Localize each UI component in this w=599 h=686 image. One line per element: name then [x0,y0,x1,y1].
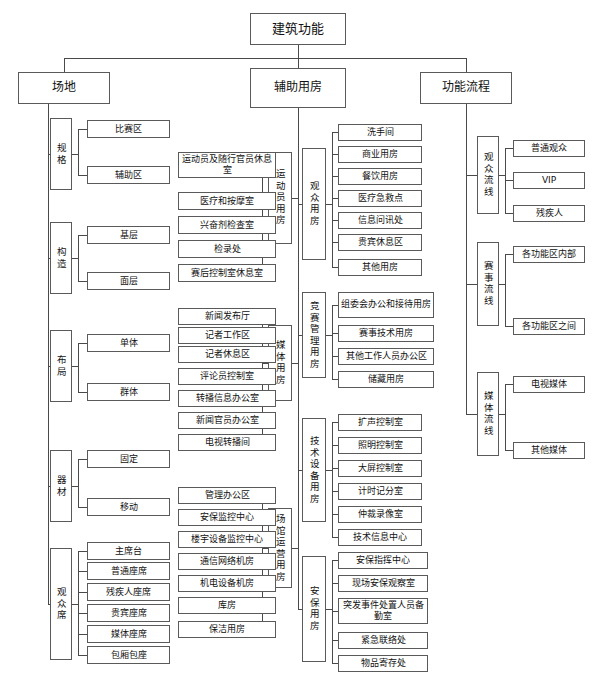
leaf-node-各功能区内部: 各功能区内部 [513,246,585,263]
leaf-node-VIP: VIP [513,172,585,189]
leaf-node-信息问讯处: 信息问讯处 [338,212,422,229]
leaf-node-运动员及随行官员休息室: 运动员及随行官员休息室 [178,152,276,178]
leaf-node-通信网络机房: 通信网络机房 [178,553,276,570]
leaf-node-库房: 库房 [178,597,276,614]
leaf-node-储藏用房: 储藏用房 [338,371,434,388]
leaf-node-组委会办公和接待用房: 组委会办公和接待用房 [338,292,434,318]
group-label-观众用房: 观众用房 [302,148,326,260]
group-label-观众席: 观众席 [50,548,72,660]
leaf-node-单体: 单体 [87,334,170,352]
group-label-媒体流线: 媒体流线 [477,372,499,456]
leaf-node-现场安保观察室: 现场安保观察室 [338,575,428,592]
group-label-技术设备用房: 技术设备用房 [302,418,326,522]
leaf-node-赛后控制室休息室: 赛后控制室休息室 [178,264,276,282]
leaf-node-洗手间: 洗手间 [338,124,422,141]
leaf-node-安保指挥中心: 安保指挥中心 [338,552,428,569]
leaf-node-包厢包座: 包厢包座 [87,646,170,664]
leaf-node-计时记分室: 计时记分室 [338,483,422,500]
leaf-node-比赛区: 比赛区 [87,120,170,138]
leaf-node-转播信息办公室: 转播信息办公室 [178,390,276,407]
branch-node-场地: 场地 [18,72,110,104]
leaf-node-大屏控制室: 大屏控制室 [338,460,422,477]
leaf-node-评论员控制室: 评论员控制室 [178,368,276,385]
leaf-node-贵宾休息区: 贵宾休息区 [338,234,422,251]
leaf-node-餐饮用房: 餐饮用房 [338,168,422,185]
leaf-node-赛事技术用房: 赛事技术用房 [338,325,434,342]
leaf-node-扩声控制室: 扩声控制室 [338,414,422,431]
leaf-node-电视媒体: 电视媒体 [513,376,585,393]
group-label-观众流线: 观众流线 [477,136,499,214]
leaf-node-媒体座席: 媒体座席 [87,625,170,643]
leaf-node-主席台: 主席台 [87,542,170,560]
leaf-node-普通座席: 普通座席 [87,562,170,580]
leaf-node-残疾人: 残疾人 [513,205,585,222]
leaf-node-医疗急救点: 医疗急救点 [338,190,422,207]
leaf-node-辅助区: 辅助区 [87,166,170,184]
leaf-node-固定: 固定 [87,450,170,468]
leaf-node-新闻发布厅: 新闻发布厅 [178,308,276,325]
leaf-node-管理办公区: 管理办公区 [178,487,276,504]
leaf-node-普通观众: 普通观众 [513,140,585,157]
group-label-安保用房: 安保用房 [302,556,326,662]
group-label-赛事流线: 赛事流线 [477,242,499,326]
leaf-node-电视转播间: 电视转播间 [178,434,276,451]
leaf-node-残疾人座席: 残疾人座席 [87,583,170,601]
branch-node-辅助用房: 辅助用房 [250,68,346,108]
root-node-building-function: 建筑功能 [250,13,346,45]
leaf-node-贵宾座席: 贵宾座席 [87,604,170,622]
leaf-node-新闻官员办公室: 新闻官员办公室 [178,412,276,429]
group-label-竞赛管理用房: 竞赛管理用房 [302,292,326,378]
leaf-node-面层: 面层 [87,272,170,290]
leaf-node-其他工作人员办公区: 其他工作人员办公区 [338,348,434,365]
leaf-node-商业用房: 商业用房 [338,146,422,163]
leaf-node-移动: 移动 [87,498,170,516]
group-label-构造: 构造 [50,222,72,294]
leaf-node-记者休息区: 记者休息区 [178,346,276,363]
leaf-node-仲裁录像室: 仲裁录像室 [338,506,422,523]
leaf-node-突发事件处置人员备勤室: 突发事件处置人员备勤室 [338,598,428,624]
leaf-node-医疗和按摩室: 医疗和按摩室 [178,192,276,210]
leaf-node-基层: 基层 [87,226,170,244]
leaf-node-机电设备机房: 机电设备机房 [178,575,276,592]
building-function-tree-diagram: 建筑功能场地辅助用房功能流程规格比赛区辅助区构造基层面层布局单体群体器材固定移动… [0,0,599,686]
leaf-node-其他用房: 其他用房 [338,259,422,276]
leaf-node-群体: 群体 [87,383,170,401]
leaf-node-紧急联络处: 紧急联络处 [338,632,428,649]
leaf-node-物品寄存处: 物品寄存处 [338,655,428,672]
leaf-node-其他媒体: 其他媒体 [513,442,585,459]
leaf-node-兴奋剂检查室: 兴奋剂检查室 [178,216,276,234]
group-label-规格: 规格 [50,118,72,190]
group-label-布局: 布局 [50,330,72,402]
leaf-node-技术信息中心: 技术信息中心 [338,529,422,546]
branch-node-功能流程: 功能流程 [420,72,512,104]
leaf-node-照明控制室: 照明控制室 [338,437,422,454]
leaf-node-各功能区之间: 各功能区之间 [513,318,585,335]
leaf-node-安保监控中心: 安保监控中心 [178,509,276,526]
leaf-node-保洁用房: 保洁用房 [178,621,276,638]
group-label-器材: 器材 [50,450,72,522]
leaf-node-记者工作区: 记者工作区 [178,327,276,344]
leaf-node-楼宇设备监控中心: 楼宇设备监控中心 [178,531,276,548]
leaf-node-检录处: 检录处 [178,240,276,258]
